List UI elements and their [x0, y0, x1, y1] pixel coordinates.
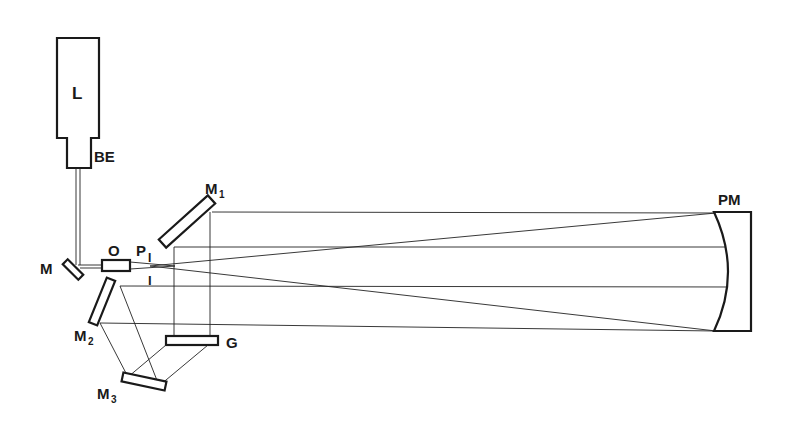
objective-label: O [108, 242, 120, 259]
beam-expander-label: BE [94, 148, 115, 165]
mirror-m3 [122, 373, 167, 391]
ray [150, 213, 716, 266]
ray [150, 266, 716, 331]
ray [128, 345, 166, 377]
mirror-m3-label: M [97, 385, 110, 402]
mirror-m2 [89, 278, 115, 326]
parabolic-mirror [714, 212, 751, 331]
ray [212, 212, 716, 213]
mirror-m1 [159, 195, 215, 247]
optical-diagram: L BE M O P I I M 1 M 2 G M 3 PM [0, 0, 793, 423]
ray [100, 323, 716, 331]
ray [120, 286, 158, 383]
mirror-m1-label: M [205, 180, 218, 197]
mirror-m2-label: M [74, 327, 87, 344]
grating [166, 336, 218, 345]
grating-label: G [226, 334, 238, 351]
mirror-m-label: M [40, 260, 53, 277]
pinhole-label: P [136, 242, 146, 259]
laser-label: L [72, 84, 82, 103]
ray [160, 345, 208, 385]
pinhole-i-top: I [148, 251, 151, 265]
ray [100, 323, 128, 377]
mirror-m3-subscript: 3 [111, 394, 117, 405]
mirror-m2-subscript: 2 [88, 336, 94, 347]
ray [120, 286, 737, 287]
parabolic-mirror-label: PM [718, 191, 741, 208]
objective [102, 260, 130, 271]
mirror-m1-subscript: 1 [219, 189, 225, 200]
laser [57, 38, 99, 168]
